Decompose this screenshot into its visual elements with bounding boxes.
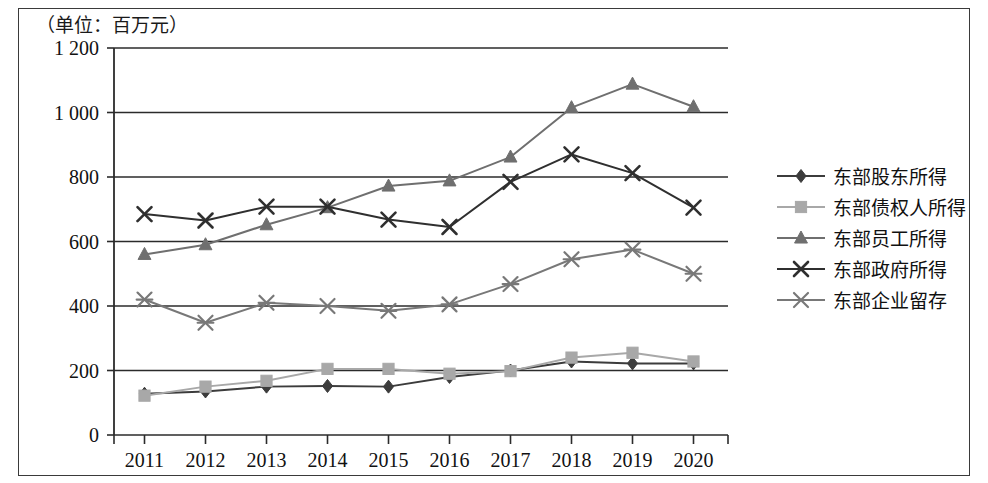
legend-item-1[interactable]: 东部股东所得: [775, 160, 980, 191]
y-axis-tick-label: 600: [29, 230, 99, 253]
data-point-square-marker: [139, 390, 150, 401]
y-axis-tick-label: 1 200: [29, 37, 99, 60]
series-line: [145, 84, 694, 254]
data-point-square-marker: [444, 368, 455, 379]
legend-marker-x-icon: [775, 258, 827, 280]
series-5: [137, 243, 702, 330]
series-line: [145, 250, 694, 323]
data-point-asterisk-marker: [686, 267, 702, 281]
x-axis-tick-label: 2019: [598, 449, 668, 472]
data-point-diamond-marker: [322, 379, 332, 392]
y-axis-tick-label: 200: [29, 359, 99, 382]
data-point-asterisk-marker: [564, 252, 580, 266]
data-point-diamond-marker: [383, 380, 393, 393]
legend-marker-triangle-icon: [775, 227, 827, 249]
series-line: [145, 154, 694, 227]
legend-label: 东部政府所得: [833, 255, 947, 282]
data-point-x-marker: [687, 201, 701, 215]
data-point-asterisk-marker: [442, 297, 458, 311]
data-point-x-marker: [626, 166, 640, 180]
y-axis-tick-label: 800: [29, 166, 99, 189]
data-point-square-marker: [627, 347, 638, 358]
data-point-square-marker: [505, 366, 516, 377]
legend-marker-diamond-icon: [775, 165, 827, 187]
x-axis-tick-label: 2020: [659, 449, 729, 472]
series-4: [138, 147, 701, 234]
x-axis-tick-label: 2018: [537, 449, 607, 472]
data-point-asterisk-marker: [793, 293, 809, 307]
legend-label: 东部企业留存: [833, 286, 947, 313]
chart-legend: 东部股东所得东部债权人所得东部员工所得东部政府所得东部企业留存: [775, 160, 980, 315]
legend-label: 东部股东所得: [833, 162, 947, 189]
data-point-asterisk-marker: [259, 296, 275, 310]
y-axis-tick-label: 0: [29, 424, 99, 447]
legend-label: 东部员工所得: [833, 224, 947, 251]
x-axis-tick-label: 2012: [171, 449, 241, 472]
legend-marker-square-icon: [775, 196, 827, 218]
data-point-square-marker: [383, 363, 394, 374]
x-axis-tick-label: 2011: [110, 449, 180, 472]
legend-marker-asterisk-icon: [775, 289, 827, 311]
data-point-asterisk-marker: [137, 293, 153, 307]
data-point-asterisk-marker: [198, 316, 214, 330]
data-point-square-marker: [322, 363, 333, 374]
legend-item-2[interactable]: 东部债权人所得: [775, 191, 980, 222]
y-axis-tick-label: 400: [29, 295, 99, 318]
y-axis-tick-label: 1 000: [29, 101, 99, 124]
data-point-square-marker: [688, 356, 699, 367]
series-1: [139, 355, 698, 400]
x-axis-tick-label: 2014: [293, 449, 363, 472]
legend-item-3[interactable]: 东部员工所得: [775, 222, 980, 253]
data-point-asterisk-marker: [625, 243, 641, 257]
data-point-square-marker: [200, 381, 211, 392]
x-axis-tick-label: 2013: [232, 449, 302, 472]
series-2: [139, 347, 699, 401]
data-point-x-marker: [565, 147, 579, 161]
data-point-diamond-marker: [796, 169, 806, 182]
legend-label: 东部债权人所得: [833, 193, 966, 220]
data-point-triangle-marker: [626, 77, 639, 89]
legend-item-5[interactable]: 东部企业留存: [775, 284, 980, 315]
data-point-square-marker: [261, 375, 272, 386]
x-axis-tick-label: 2015: [354, 449, 424, 472]
data-point-asterisk-marker: [503, 277, 519, 291]
data-point-asterisk-marker: [320, 299, 336, 313]
legend-item-4[interactable]: 东部政府所得: [775, 253, 980, 284]
series-line: [145, 361, 694, 393]
data-point-square-marker: [795, 201, 806, 212]
x-axis-tick-label: 2017: [476, 449, 546, 472]
x-axis-tick-label: 2016: [415, 449, 485, 472]
data-point-square-marker: [566, 352, 577, 363]
data-point-triangle-marker: [504, 150, 517, 162]
